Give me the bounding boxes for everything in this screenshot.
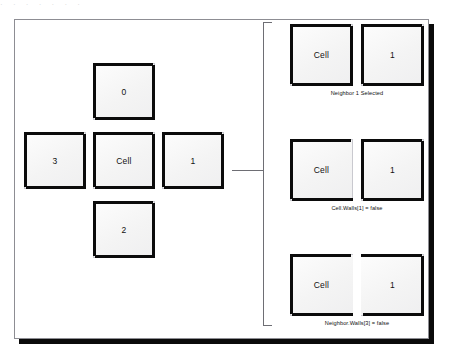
cross-cell-east[interactable]: 1 (162, 132, 224, 189)
wall-bottom (26, 186, 86, 189)
wall-left (162, 132, 165, 187)
cross-cell-center[interactable]: Cell (93, 132, 155, 189)
wall-top (290, 139, 351, 142)
step-1-neighbor-label: 1 (390, 50, 395, 60)
wall-left (93, 201, 96, 256)
step-3-cell-box[interactable]: Cell (290, 254, 353, 316)
wall-bottom (292, 198, 353, 201)
wall-bottom (95, 255, 155, 258)
step-3-neighbor-label: 1 (390, 280, 395, 290)
wall-top (290, 24, 351, 27)
wall-bottom (164, 186, 224, 189)
wall-top (24, 132, 84, 135)
step-3-caption: Neighbor.Walls[3] = false (285, 320, 429, 326)
wall-top (93, 201, 153, 204)
cross-cell-north[interactable]: 0 (93, 63, 155, 120)
bracket-spine (263, 22, 264, 326)
wall-left (361, 139, 364, 199)
cross-cell-center-label: Cell (116, 156, 131, 166)
wall-top (290, 254, 351, 257)
step-3-cell-label: Cell (314, 280, 329, 290)
steps-bracket (263, 22, 273, 326)
wall-bottom (363, 313, 424, 316)
wall-left (24, 132, 27, 187)
wall-top (361, 24, 422, 27)
wall-left (93, 63, 96, 118)
cross-cell-south[interactable]: 2 (93, 201, 155, 258)
wall-left (290, 24, 293, 84)
wall-top (361, 254, 422, 257)
wall-right (421, 256, 424, 316)
edge (352, 139, 353, 201)
wall-right (350, 26, 353, 86)
cross-cell-south-label: 2 (122, 225, 127, 235)
step-1-caption: Neighbor 1 Selected (290, 90, 424, 96)
step-1-neighbor-box[interactable]: 1 (361, 24, 424, 86)
wall-bottom (363, 198, 424, 201)
cross-cell-north-label: 0 (122, 87, 127, 97)
connector-line (232, 170, 264, 171)
wall-right (421, 141, 424, 201)
step-2-neighbor-label: 1 (390, 165, 395, 175)
wall-left (93, 132, 96, 187)
wall-bottom (95, 117, 155, 120)
wall-left (290, 254, 293, 314)
step-1-cell-label: Cell (314, 50, 329, 60)
wall-right (421, 26, 424, 86)
wall-top (93, 132, 153, 135)
step-2-cell-box[interactable]: Cell (290, 139, 353, 201)
wall-right (221, 134, 224, 189)
wall-bottom (292, 313, 353, 316)
cross-cell-east-label: 1 (191, 156, 196, 166)
step-2-caption: Cell.Walls[1] = false (290, 205, 424, 211)
wall-right (152, 203, 155, 258)
step-3-neighbor-box[interactable]: 1 (361, 254, 424, 316)
step-2-cell-label: Cell (314, 165, 329, 175)
cross-cell-west[interactable]: 3 (24, 132, 86, 189)
step-2-neighbor-box[interactable]: 1 (361, 139, 424, 201)
wall-bottom (292, 83, 353, 86)
wall-top (162, 132, 222, 135)
bracket-tick-bottom (263, 325, 272, 326)
step-1-cell-box[interactable]: Cell (290, 24, 353, 86)
wall-left (290, 139, 293, 199)
wall-right (83, 134, 86, 189)
wall-right (152, 134, 155, 189)
wall-bottom (95, 186, 155, 189)
wall-top (361, 139, 422, 142)
frame-shadow-bottom-edge (19, 339, 434, 344)
bracket-tick-top (263, 22, 272, 23)
cross-cell-west-label: 3 (53, 156, 58, 166)
page-top-text-artifact: · · · · · · · (0, 0, 450, 9)
wall-left (361, 24, 364, 84)
frame-shadow-right-edge (429, 24, 434, 344)
wall-bottom (363, 83, 424, 86)
wall-top (93, 63, 153, 66)
wall-right (152, 65, 155, 120)
